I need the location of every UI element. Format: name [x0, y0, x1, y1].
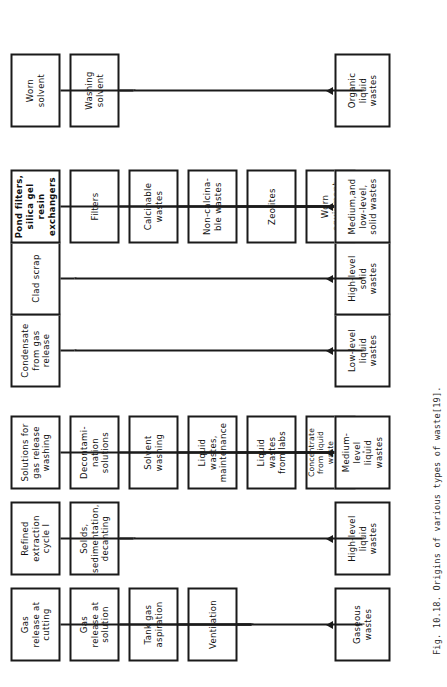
arrowhead-low-level-liquid: [326, 347, 333, 355]
connector-feed-h-low-level-liquid: [362, 349, 364, 350]
figure-page: Gas release at cuttingGas release at sol…: [0, 0, 447, 687]
connector-feed-high-level-solid: [74, 277, 362, 279]
source-box-low-level-liquid-0: Condensate from gas release: [10, 313, 60, 387]
connector-feed-low-level-liquid: [74, 349, 362, 351]
arrowhead-medium-level-liquid: [326, 449, 333, 457]
source-box-medium-level-liquid-0: Solutions for gas release washing: [10, 415, 60, 489]
connector-feed-h-high-level-solid: [362, 277, 364, 278]
source-box-organic-liquid-0: Worn solvent: [10, 53, 60, 127]
arrowhead-organic-liquid: [326, 87, 333, 95]
connector-stub-gaseous-3: [237, 623, 251, 625]
connector-stub-high-level-liquid-1: [119, 537, 133, 539]
connector-feed-h-gaseous: [362, 623, 364, 624]
connector-feed-h-high-level-liquid: [362, 537, 364, 538]
source-box-gaseous-0: Gas release at cutting: [10, 587, 60, 661]
connector-stub-high-level-solid-0: [60, 277, 74, 279]
arrowhead-medium-and-low-level-solid: [326, 203, 333, 211]
flowchart: Gas release at cuttingGas release at sol…: [0, 0, 400, 687]
connector-feed-gaseous: [251, 623, 362, 625]
arrowhead-high-level-solid: [326, 275, 333, 283]
source-box-medium-and-low-level-solid-0: Pond filters, silica gel resin exchanger…: [10, 169, 60, 243]
source-box-high-level-liquid-0: Refined extraction cycle I: [10, 501, 60, 575]
connector-stub-low-level-liquid-0: [60, 349, 74, 351]
connector-feed-h-medium-and-low-level-solid: [362, 205, 364, 206]
flowchart-canvas: Gas release at cuttingGas release at sol…: [0, 0, 447, 687]
connector-feed-h-medium-level-liquid: [362, 451, 364, 452]
connector-stub-organic-liquid-1: [119, 89, 133, 91]
figure-caption: Fig. 10.18. Origins of various types of …: [432, 386, 442, 655]
arrowhead-gaseous: [326, 621, 333, 629]
connector-feed-h-organic-liquid: [362, 89, 364, 90]
source-box-high-level-solid-0: Clad scrap: [10, 241, 60, 315]
arrowhead-high-level-liquid: [326, 535, 333, 543]
